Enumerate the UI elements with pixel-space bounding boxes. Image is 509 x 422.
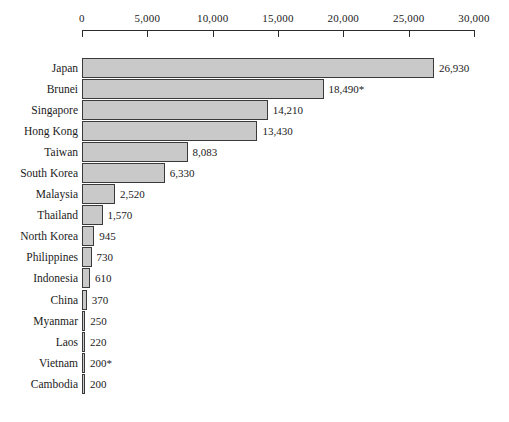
axis-tick-label-2: 10,000 [197, 12, 228, 24]
bar-row: Taiwan8,083 [0, 141, 509, 162]
bar-china[interactable] [82, 290, 87, 310]
bar-north-korea[interactable] [82, 226, 94, 246]
bar-row: Myanmar250 [0, 310, 509, 331]
bar-laos[interactable] [82, 332, 85, 352]
category-label-cambodia: Cambodia [31, 377, 78, 390]
axis-tick-0 [82, 30, 83, 37]
bar-japan[interactable] [82, 58, 434, 78]
bar-row: Indonesia610 [0, 268, 509, 289]
category-label-philippines: Philippines [26, 251, 78, 264]
axis-tick-label-6: 30,000 [458, 12, 489, 24]
value-label-vietnam: 200* [90, 356, 112, 369]
value-label-brunei: 18,490* [329, 82, 365, 95]
axis-tick-1 [147, 30, 148, 37]
bar-row: Cambodia200 [0, 373, 509, 394]
bar-row: Japan26,930 [0, 57, 509, 78]
axis-tick-label-0: 0 [79, 12, 85, 24]
bar-brunei[interactable] [82, 79, 324, 99]
value-label-thailand: 1,570 [108, 209, 133, 222]
bar-row: Singapore14,210 [0, 99, 509, 120]
value-label-philippines: 730 [97, 251, 114, 264]
category-label-south-korea: South Korea [20, 167, 78, 180]
axis-tick-4 [343, 30, 344, 37]
axis-tick-label-4: 20,000 [328, 12, 359, 24]
value-label-china: 370 [92, 293, 109, 306]
bar-philippines[interactable] [82, 247, 92, 267]
value-label-south-korea: 6,330 [170, 167, 195, 180]
bar-hong-kong[interactable] [82, 121, 257, 141]
x-axis: 05,00010,00015,00020,00025,00030,000 [0, 0, 509, 56]
bar-row: Brunei18,490* [0, 78, 509, 99]
bar-thailand[interactable] [82, 205, 103, 225]
category-label-thailand: Thailand [37, 209, 78, 222]
bar-row: Vietnam200* [0, 352, 509, 373]
value-label-myanmar: 250 [90, 314, 107, 327]
axis-tick-label-1: 5,000 [134, 12, 160, 24]
category-label-malaysia: Malaysia [36, 188, 78, 201]
value-label-hong-kong: 13,430 [262, 124, 292, 137]
category-label-japan: Japan [52, 61, 78, 74]
value-label-north-korea: 945 [99, 230, 116, 243]
axis-tick-6 [474, 30, 475, 37]
bar-taiwan[interactable] [82, 142, 188, 162]
bar-singapore[interactable] [82, 100, 268, 120]
value-label-cambodia: 200 [90, 377, 107, 390]
axis-tick-5 [409, 30, 410, 37]
category-label-indonesia: Indonesia [33, 272, 78, 285]
category-label-vietnam: Vietnam [39, 356, 78, 369]
bar-row: North Korea945 [0, 226, 509, 247]
bar-cambodia[interactable] [82, 374, 85, 394]
category-label-north-korea: North Korea [20, 230, 78, 243]
bar-row: Laos220 [0, 331, 509, 352]
category-label-singapore: Singapore [31, 103, 78, 116]
bar-row: South Korea6,330 [0, 162, 509, 183]
bar-row: Malaysia2,520 [0, 184, 509, 205]
bar-malaysia[interactable] [82, 184, 115, 204]
axis-tick-label-5: 25,000 [393, 12, 424, 24]
bar-row: Thailand1,570 [0, 205, 509, 226]
bar-chart: 05,00010,00015,00020,00025,00030,000 Jap… [0, 0, 509, 422]
axis-tick-label-3: 15,000 [262, 12, 293, 24]
value-label-singapore: 14,210 [273, 103, 303, 116]
bar-row: China370 [0, 289, 509, 310]
bar-vietnam[interactable] [82, 353, 85, 373]
category-label-hong-kong: Hong Kong [24, 124, 78, 137]
value-label-taiwan: 8,083 [193, 145, 218, 158]
axis-tick-3 [278, 30, 279, 37]
category-label-taiwan: Taiwan [44, 145, 78, 158]
category-label-myanmar: Myanmar [33, 314, 78, 327]
axis-tick-2 [213, 30, 214, 37]
bar-indonesia[interactable] [82, 268, 90, 288]
value-label-malaysia: 2,520 [120, 188, 145, 201]
category-label-brunei: Brunei [47, 82, 78, 95]
bar-row: Hong Kong13,430 [0, 120, 509, 141]
category-label-china: China [51, 293, 78, 306]
category-label-laos: Laos [56, 335, 78, 348]
plot-area: Japan26,930Brunei18,490*Singapore14,210H… [0, 57, 509, 397]
bar-row: Philippines730 [0, 247, 509, 268]
value-label-indonesia: 610 [95, 272, 112, 285]
value-label-laos: 220 [90, 335, 107, 348]
value-label-japan: 26,930 [439, 61, 469, 74]
bar-myanmar[interactable] [82, 311, 85, 331]
bar-south-korea[interactable] [82, 163, 165, 183]
